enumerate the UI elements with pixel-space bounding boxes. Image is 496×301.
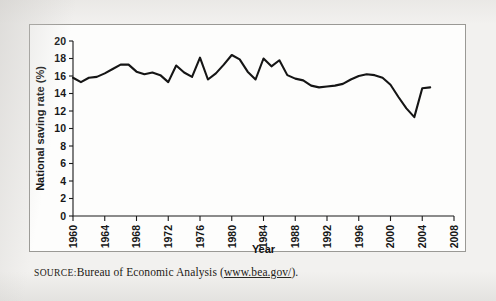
x-tick-label: 1996 bbox=[353, 225, 365, 249]
x-tick-label: 1968 bbox=[130, 225, 142, 249]
y-tick-label: 8 bbox=[60, 140, 66, 152]
y-tick-label: 12 bbox=[54, 105, 66, 117]
y-tick-label: 18 bbox=[54, 52, 66, 64]
source-caption: SOURCE:Bureau of Economic Analysis (www.… bbox=[34, 266, 298, 278]
x-tick-label: 1980 bbox=[226, 225, 238, 249]
y-tick-label: 6 bbox=[60, 157, 66, 169]
figure-frame: 02468101214161820 1960196419681972197619… bbox=[29, 24, 466, 252]
chart-plot-area: 02468101214161820 1960196419681972197619… bbox=[30, 25, 467, 253]
caption-body: Bureau of Economic Analysis ( bbox=[77, 266, 224, 278]
x-tick-label: 2008 bbox=[448, 225, 460, 249]
y-tick-label: 14 bbox=[54, 87, 66, 99]
x-axis-title: Year bbox=[252, 243, 276, 253]
y-tick-label: 16 bbox=[54, 70, 66, 82]
x-tick-label: 2004 bbox=[416, 225, 428, 249]
y-tick-label: 0 bbox=[60, 210, 66, 222]
national-saving-rate-line-chart: 02468101214161820 1960196419681972197619… bbox=[30, 25, 467, 253]
y-tick-label: 10 bbox=[54, 122, 66, 134]
x-tick-label: 1976 bbox=[194, 225, 206, 249]
y-tick-label: 4 bbox=[60, 175, 66, 187]
x-tick-label: 1972 bbox=[162, 225, 174, 249]
scanned-page: 02468101214161820 1960196419681972197619… bbox=[0, 0, 496, 301]
y-tick-label: 2 bbox=[60, 192, 66, 204]
x-tick-label: 1988 bbox=[289, 225, 301, 249]
caption-suffix: ). bbox=[291, 266, 298, 278]
caption-link[interactable]: www.bea.gov/ bbox=[224, 266, 292, 278]
caption-source-word: SOURCE: bbox=[34, 267, 77, 278]
y-tick-label: 20 bbox=[54, 35, 66, 47]
saving-rate-series bbox=[73, 55, 430, 117]
x-tick-label: 2000 bbox=[384, 225, 396, 249]
x-tick-label: 1964 bbox=[99, 225, 111, 249]
x-tick-label: 1992 bbox=[321, 225, 333, 249]
y-axis-title: National saving rate (%) bbox=[34, 66, 46, 191]
x-tick-label: 1960 bbox=[67, 225, 79, 249]
